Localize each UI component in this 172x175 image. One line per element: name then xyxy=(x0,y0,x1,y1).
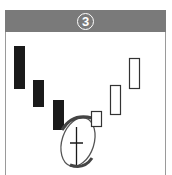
bearish-candle-3 xyxy=(53,100,64,130)
bullish-candle-2 xyxy=(111,86,121,115)
bearish-candle-1 xyxy=(14,46,25,89)
bullish-candle-1 xyxy=(92,112,102,127)
bearish-candle-2 xyxy=(33,80,44,107)
candlestick-diagram xyxy=(0,0,172,175)
bullish-candle-3 xyxy=(130,59,140,89)
highlight-ellipse-shadow-bottom xyxy=(70,158,92,166)
